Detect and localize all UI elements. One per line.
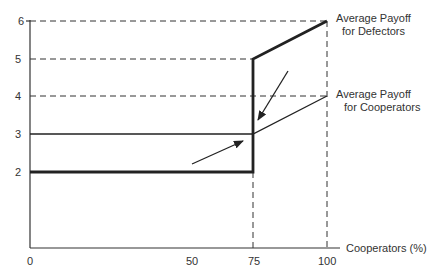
label-defectors: Average Payoff for Defectors bbox=[336, 12, 412, 37]
horizontal-reference-lines bbox=[30, 21, 327, 96]
label-defectors-line2: for Defectors bbox=[342, 25, 405, 37]
x-axis-label: Cooperators (%) bbox=[346, 242, 427, 254]
arrow-rising-icon bbox=[192, 141, 243, 164]
label-cooperators-line2: for Cooperators bbox=[344, 101, 421, 113]
x-tick-label: 50 bbox=[186, 255, 198, 267]
label-cooperators: Average Payoff for Cooperators bbox=[336, 88, 421, 113]
x-tick-label: 75 bbox=[248, 255, 260, 267]
label-cooperators-line1: Average Payoff bbox=[336, 88, 412, 100]
y-tick-label: 2 bbox=[15, 166, 21, 178]
x-tick-label: 100 bbox=[318, 255, 336, 267]
y-tick-label: 4 bbox=[15, 90, 21, 102]
x-tick-label: 0 bbox=[27, 255, 33, 267]
x-tick-labels: 0 50 75 100 bbox=[27, 255, 336, 267]
y-tick-label: 6 bbox=[18, 15, 24, 27]
y-tick-label: 3 bbox=[15, 128, 21, 140]
payoff-chart: 6 5 4 3 2 0 50 75 100 Cooperators (%) Av… bbox=[0, 0, 433, 272]
y-tick-labels: 6 5 4 3 2 bbox=[15, 15, 24, 178]
vertical-reference-lines bbox=[253, 21, 327, 248]
series-cooperators bbox=[30, 96, 327, 134]
y-tick-label: 5 bbox=[15, 53, 21, 65]
label-defectors-line1: Average Payoff bbox=[336, 12, 412, 24]
